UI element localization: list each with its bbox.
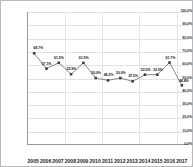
data-point-marker (57, 62, 60, 65)
plot-area: 68.7%57.1%61.5%52.9%61.5%50.0%48.2%50.0%… (27, 12, 188, 145)
data-point-label: 50.0% (116, 73, 126, 77)
data-point-marker (156, 73, 159, 76)
x-axis-tick-label: 2015 (151, 159, 162, 164)
x-axis-tick-label: 2010 (89, 159, 100, 164)
data-point-label: 47.5% (128, 76, 138, 80)
x-axis-tick-label: 2017 (176, 159, 187, 164)
data-point-label: 50.0% (91, 73, 101, 77)
data-point-marker (181, 84, 184, 87)
chart-container: 68.7%57.1%61.5%52.9%61.5%50.0%48.2%50.0%… (0, 0, 193, 167)
data-point-marker (33, 52, 36, 55)
data-point-label: 61.7% (166, 57, 176, 61)
x-axis-tick-label: 2014 (139, 159, 150, 164)
y-axis-tick-label: 50.0% (168, 77, 192, 81)
y-axis-tick-label: 10.0% (168, 130, 192, 134)
x-axis-tick-label: 2006 (40, 159, 51, 164)
y-axis-tick-label: 100.0% (168, 10, 192, 14)
data-point-label: 52.9% (66, 69, 76, 73)
data-point-label: 57.1% (42, 63, 52, 67)
data-point-label: 68.7% (33, 48, 43, 52)
data-point-marker (107, 79, 110, 82)
data-point-marker (119, 77, 122, 80)
x-axis-tick-label: 2013 (127, 159, 138, 164)
y-axis-tick-label: 80.0% (168, 37, 192, 41)
data-point-label: 52.5% (141, 69, 151, 73)
y-axis-tick-label: 60.0% (168, 63, 192, 67)
data-point-label: 61.5% (79, 57, 89, 61)
data-point-label: 52.5% (153, 69, 163, 73)
data-point-label: 44.4% (179, 80, 189, 84)
data-point-marker (45, 67, 48, 70)
y-axis-tick-label: 90.0% (168, 24, 192, 28)
y-axis-tick-label: 20.0% (168, 117, 192, 121)
data-point-marker (70, 73, 73, 76)
data-point-marker (94, 77, 97, 80)
x-axis-tick-label: 2012 (114, 159, 125, 164)
x-axis-tick-label: 2009 (77, 159, 88, 164)
y-axis-tick-label: 0.0% (168, 143, 192, 147)
x-axis-tick-label: 2007 (52, 159, 63, 164)
data-point-label: 61.5% (54, 57, 64, 61)
data-point-marker (131, 80, 134, 83)
y-axis-tick-label: 40.0% (168, 90, 192, 94)
x-axis-tick-label: 2008 (65, 159, 76, 164)
data-point-label: 48.2% (104, 75, 114, 79)
data-point-marker (82, 62, 85, 65)
x-axis-tick-label: 2011 (102, 159, 113, 164)
y-axis-tick-label: 30.0% (168, 103, 192, 107)
data-point-marker (144, 73, 147, 76)
x-axis-tick-label: 2005 (28, 159, 39, 164)
y-axis-tick-label: 70.0% (168, 50, 192, 54)
x-axis-tick-label: 2016 (164, 159, 175, 164)
